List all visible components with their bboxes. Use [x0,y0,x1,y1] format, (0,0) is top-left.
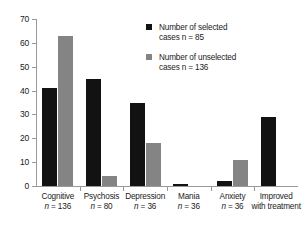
bar-psychosis-unselected [102,176,117,186]
bar-improved-with-treatment-selected [261,117,276,186]
bar-cognitive-selected [42,88,57,186]
y-axis-tick [32,186,37,187]
x-axis-tick [80,187,81,191]
chart-legend: Number of selected cases n = 85 Number o… [146,23,304,83]
bar-anxiety-unselected [233,160,248,186]
legend-swatch-selected-icon [146,24,152,30]
x-axis-label-sub: with treatment [248,202,304,212]
y-axis-tick-label: 40 [4,87,29,96]
legend-item-selected: Number of selected cases n = 85 [146,23,304,44]
y-axis-tick-label: 10 [4,158,29,167]
legend-label-selected-line1: Number of selected [159,23,304,33]
legend-label-selected-line2: cases n = 85 [159,33,304,43]
x-axis-tick [123,187,124,191]
y-axis-tick-label: 0 [4,182,29,191]
legend-swatch-unselected-icon [146,54,152,60]
y-axis-tick-label: 50 [4,63,29,72]
y-axis-tick-label: 30 [4,110,29,119]
bar-mania-selected [173,184,188,186]
bar-psychosis-selected [86,79,101,186]
legend-label-unselected-line1: Number of unselected [159,53,304,63]
y-axis-tick-label: 60 [4,39,29,48]
y-axis-tick-label: 20 [4,134,29,143]
legend-label-unselected-line2: cases n = 136 [159,63,304,73]
bar-cognitive-unselected [58,36,73,186]
bar-depression-unselected [146,143,161,186]
bar-depression-selected [130,103,145,187]
x-axis-tick [254,187,255,191]
x-axis-label-improved: Improvedwith treatment [248,192,304,211]
x-axis-label-name: Improved [248,192,304,202]
bar-chart: 010203040506070 Cognitiven = 136Psychosi… [0,0,307,229]
y-axis-tick-label: 70 [4,15,29,24]
x-axis-tick [167,187,168,191]
bar-anxiety-selected [217,181,232,186]
x-axis-tick [211,187,212,191]
legend-item-unselected: Number of unselected cases n = 136 [146,53,304,74]
